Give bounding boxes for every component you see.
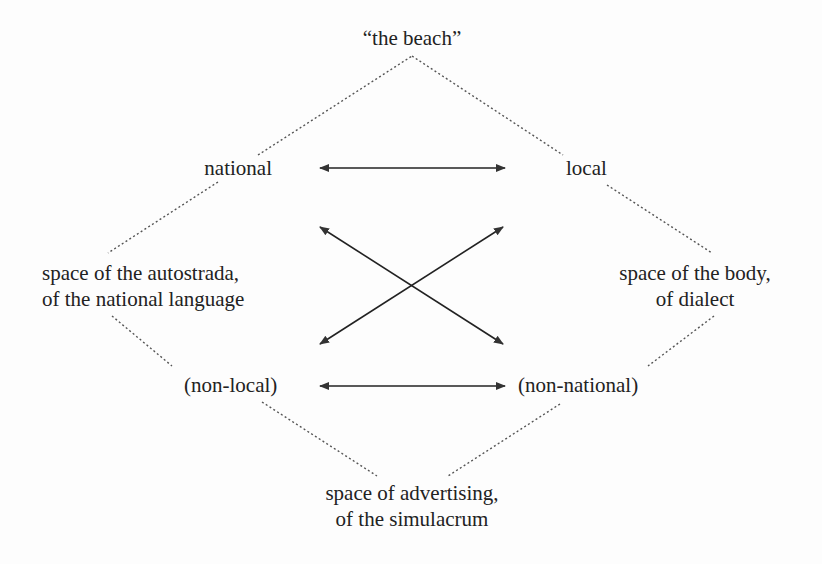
- node-advertising-line1: space of advertising,: [300, 480, 524, 506]
- dotted-line-apex-local: [412, 56, 563, 155]
- dotted-line-nonlocal-advertising: [262, 402, 377, 476]
- node-autostrada: space of the autostrada, of the national…: [42, 260, 244, 312]
- node-local: local: [566, 155, 607, 181]
- node-non-local: (non-local): [184, 372, 277, 398]
- node-the-beach: “the beach”: [312, 25, 512, 51]
- node-national: national: [150, 155, 272, 181]
- node-autostrada-line1: space of the autostrada,: [42, 260, 244, 286]
- node-body-line1: space of the body,: [600, 260, 790, 286]
- node-advertising-line2: of the simulacrum: [300, 506, 524, 532]
- diagram-canvas: “the beach” national local space of the …: [0, 0, 822, 564]
- dotted-line-body-nonnational: [648, 316, 714, 366]
- dotted-line-autostrada-nonlocal: [112, 316, 172, 366]
- node-body: space of the body, of dialect: [600, 260, 790, 312]
- node-non-national: (non-national): [518, 372, 638, 398]
- dotted-line-local-body: [607, 185, 712, 253]
- node-autostrada-line2: of the national language: [42, 286, 244, 312]
- dotted-line-national-autostrada: [108, 182, 218, 253]
- dotted-line-nonnational-advertising: [448, 404, 560, 476]
- dotted-line-apex-national: [258, 56, 412, 155]
- node-body-line2: of dialect: [600, 286, 790, 312]
- node-advertising: space of advertising, of the simulacrum: [300, 480, 524, 532]
